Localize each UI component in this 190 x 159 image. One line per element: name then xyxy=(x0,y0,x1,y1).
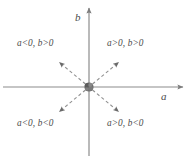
arrow-upper-left-icon xyxy=(60,63,86,85)
quadrant-label-lower-right: a>0, b<0 xyxy=(107,119,144,128)
axis-label-b: b xyxy=(75,12,81,23)
quadrant-label-lower-left: a<0, b<0 xyxy=(17,119,54,128)
arrow-lower-left-icon xyxy=(60,90,86,112)
arrow-lower-right-icon xyxy=(93,90,119,112)
origin-marker-icon xyxy=(84,82,93,91)
axis-label-a: a xyxy=(161,91,167,102)
quadrant-sign-diagram: b a a<0, b>0 a>0, b>0 a<0, b<0 a>0, b<0 xyxy=(0,0,190,159)
arrow-upper-right-icon xyxy=(93,63,119,85)
quadrant-label-upper-left: a<0, b>0 xyxy=(17,39,54,48)
quadrant-label-upper-right: a>0, b>0 xyxy=(107,39,144,48)
diagram-canvas xyxy=(0,0,190,159)
